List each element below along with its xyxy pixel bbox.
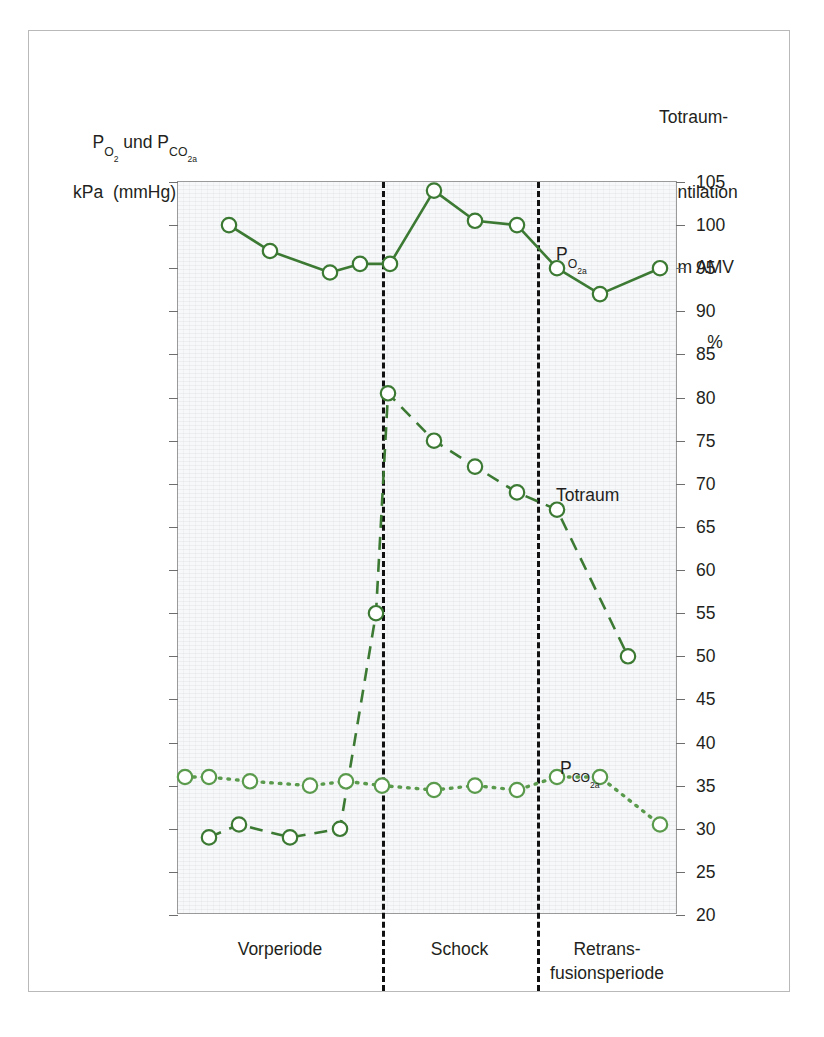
data-point-marker [202, 770, 216, 784]
data-point-marker [222, 218, 236, 232]
figure-frame: PO2 und PCO2a kPa (mmHg) Totraum- ventil… [28, 30, 790, 992]
y-tick-left [169, 484, 178, 485]
y-tick-left [169, 354, 178, 355]
data-point-marker [323, 265, 337, 279]
data-point-marker [202, 830, 216, 844]
left-axis-caption-line1: PO2 und PCO2a [92, 132, 197, 152]
right-axis-caption-line1: Totraum- [659, 105, 771, 130]
data-point-marker [283, 830, 297, 844]
series-label-p-o2a: PO2a [556, 244, 587, 265]
data-point-marker [427, 183, 441, 197]
y-tick-left [169, 225, 178, 226]
y-tick-label-right: 105 [696, 172, 756, 193]
data-point-marker [468, 459, 482, 473]
data-point-marker [510, 783, 524, 797]
x-category-label: Vorperiode [190, 937, 370, 961]
y-tick-label-right: 55 [696, 603, 756, 624]
y-tick-label-right: 20 [696, 905, 756, 926]
data-point-marker [369, 606, 383, 620]
y-tick-label-right: 100 [696, 215, 756, 236]
y-tick-left [169, 441, 178, 442]
y-tick-label-right: 50 [696, 646, 756, 667]
y-tick-label-right: 70 [696, 473, 756, 494]
data-point-marker [353, 257, 367, 271]
y-tick-left [169, 699, 178, 700]
y-tick-left [169, 743, 178, 744]
y-tick-label-right: 60 [696, 560, 756, 581]
data-point-marker [468, 214, 482, 228]
data-point-marker [510, 218, 524, 232]
data-point-marker [263, 244, 277, 258]
data-point-marker [232, 817, 246, 831]
data-point-marker [468, 778, 482, 792]
y-tick-left [169, 829, 178, 830]
y-tick-left [169, 311, 178, 312]
data-point-marker [427, 434, 441, 448]
y-tick-left [169, 613, 178, 614]
y-tick-label-right: 40 [696, 732, 756, 753]
data-point-marker [333, 822, 347, 836]
data-point-marker [510, 485, 524, 499]
y-tick-label-right: 25 [696, 861, 756, 882]
series-label-totraum: Totraum [556, 485, 619, 506]
y-tick-left [169, 268, 178, 269]
y-tick-left [169, 398, 178, 399]
data-point-marker [303, 778, 317, 792]
y-tick-left [169, 872, 178, 873]
y-tick-left [169, 570, 178, 571]
y-tick-left [169, 656, 178, 657]
series-label-p-co2a: PCO2a [560, 758, 600, 779]
data-point-marker [339, 774, 353, 788]
data-point-marker [427, 783, 441, 797]
y-tick-label-right: 80 [696, 387, 756, 408]
y-tick-label-right: 45 [696, 689, 756, 710]
y-tick-label-right: 95 [696, 258, 756, 279]
y-tick-label-right: 35 [696, 775, 756, 796]
y-tick-left [169, 527, 178, 528]
y-tick-label-right: 90 [696, 301, 756, 322]
x-category-label: Retrans-fusionsperiode [517, 937, 697, 985]
y-tick-label-right: 65 [696, 516, 756, 537]
series-line-p-o2a [229, 191, 660, 295]
y-tick-label-right: 75 [696, 430, 756, 451]
data-point-marker [621, 649, 635, 663]
chart-series-layer [178, 182, 678, 915]
data-point-marker [243, 774, 257, 788]
data-point-marker [593, 287, 607, 301]
data-point-marker [381, 386, 395, 400]
data-point-marker [653, 261, 667, 275]
y-tick-left [169, 182, 178, 183]
plot-area: 14,00 – 10510513,33 – 10010012,67 – 9595… [177, 181, 677, 914]
y-tick-label-right: 30 [696, 818, 756, 839]
y-tick-label-right: 85 [696, 344, 756, 365]
y-tick-left [169, 786, 178, 787]
data-point-marker [383, 257, 397, 271]
data-point-marker [375, 778, 389, 792]
data-point-marker [653, 817, 667, 831]
y-tick-left [169, 915, 178, 916]
y-tick-right [676, 915, 685, 916]
data-point-marker [178, 770, 192, 784]
